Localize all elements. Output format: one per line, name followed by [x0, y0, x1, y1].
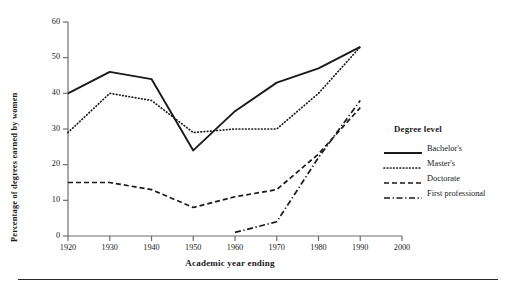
legend-item-label: First professional [427, 189, 485, 198]
legend-item-label: Doctorate [427, 174, 460, 183]
y-tick-label: 50 [38, 52, 60, 61]
data-series-group [68, 47, 360, 232]
legend-item: Master's [383, 156, 507, 171]
y-axis-title: Percentage of degrees earned by women [8, 14, 26, 244]
legend-item: Doctorate [383, 171, 507, 186]
x-tick-label: 1940 [132, 243, 172, 252]
legend-item-label: Bachelor's [427, 144, 462, 153]
x-tick-label: 1920 [48, 243, 88, 252]
x-tick-label: 1970 [257, 243, 297, 252]
legend-line-sample [383, 189, 423, 199]
figure-line-chart: Percentage of degrees earned by women 01… [0, 0, 509, 289]
x-axis-title: Academic year ending [0, 258, 460, 268]
series-line [68, 47, 360, 133]
y-tick-label: 0 [38, 231, 60, 240]
y-axis-title-text: Percentage of degrees earned by women [10, 93, 19, 242]
y-axis-ticks [63, 22, 68, 236]
x-tick-label: 1980 [299, 243, 339, 252]
x-tick-label: 2000 [382, 243, 422, 252]
legend-item: Bachelor's [383, 141, 507, 156]
series-line [68, 108, 360, 208]
legend-item: First professional [383, 186, 507, 201]
legend-line-sample [383, 144, 423, 154]
legend-item-label: Master's [427, 159, 455, 168]
series-line [68, 47, 360, 150]
series-line [235, 100, 360, 232]
footer-divider [18, 279, 498, 280]
chart-legend: Degree level Bachelor'sMaster'sDoctorate… [383, 124, 507, 201]
y-tick-label: 10 [38, 195, 60, 204]
y-tick-label: 40 [38, 88, 60, 97]
y-tick-label: 30 [38, 124, 60, 133]
y-tick-label: 60 [38, 17, 60, 26]
x-tick-label: 1990 [340, 243, 380, 252]
x-tick-label: 1930 [90, 243, 130, 252]
x-axis-ticks [68, 236, 402, 241]
y-tick-label: 20 [38, 159, 60, 168]
x-tick-label: 1960 [215, 243, 255, 252]
legend-line-sample [383, 174, 423, 184]
legend-title: Degree level [394, 124, 507, 134]
x-tick-label: 1950 [173, 243, 213, 252]
legend-line-sample [383, 159, 423, 169]
